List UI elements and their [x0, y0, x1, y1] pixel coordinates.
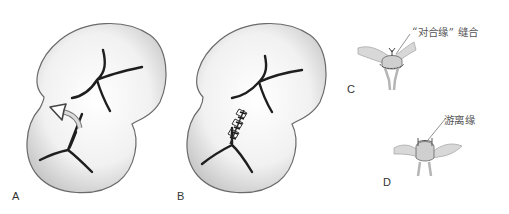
annotation-c: “对合缘” 缝合: [412, 24, 478, 39]
panel-label-b: B: [177, 190, 184, 202]
panel-a-tissue: [27, 24, 166, 193]
panel-b-tissue: [187, 24, 326, 193]
panel-c-cross-section: [358, 34, 416, 90]
panel-label-a: A: [12, 190, 19, 202]
figure: A B C D “对合缘” 缝合 游离缘: [0, 0, 509, 214]
panel-label-c: C: [347, 83, 355, 95]
panel-label-d: D: [383, 176, 391, 188]
annotation-d: 游离缘: [444, 112, 475, 127]
